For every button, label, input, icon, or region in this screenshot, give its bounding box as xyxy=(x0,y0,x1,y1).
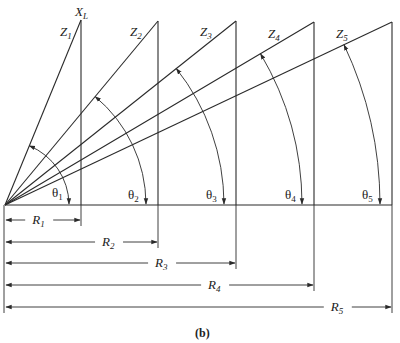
theta-label-3: θ3 xyxy=(206,187,217,204)
theta-arc-1 xyxy=(29,146,69,204)
r-label-1: R1 xyxy=(31,212,44,229)
r-label-4: R4 xyxy=(207,277,221,294)
triangle-4: Z4θ4R4 xyxy=(5,22,314,294)
z-label-4: Z4 xyxy=(268,26,280,43)
r-label-2: R2 xyxy=(101,234,115,251)
triangle-5: Z5θ5R5 xyxy=(5,22,392,316)
z-label-3: Z3 xyxy=(200,24,212,41)
theta-label-4: θ4 xyxy=(285,187,296,204)
triangle-3: Z3θ3R3 xyxy=(5,21,236,272)
theta-label-2: θ2 xyxy=(128,187,139,204)
z-label-1: Z1 xyxy=(60,24,72,41)
z-label-2: Z2 xyxy=(130,24,142,41)
r-label-3: R3 xyxy=(154,255,168,272)
theta-label-5: θ5 xyxy=(362,187,373,204)
z-label-5: Z5 xyxy=(336,26,348,43)
figure-caption: (b) xyxy=(195,326,210,340)
r-label-5: R5 xyxy=(330,299,344,316)
hypotenuse-z3 xyxy=(5,21,236,205)
xl-label: XL xyxy=(74,4,88,21)
theta-arc-4 xyxy=(261,54,303,204)
hypotenuse-z1 xyxy=(5,20,81,205)
theta-label-1: θ1 xyxy=(52,185,63,202)
hypotenuse-z5 xyxy=(5,22,392,205)
hypotenuse-z4 xyxy=(5,22,314,205)
theta-arc-5 xyxy=(344,45,380,204)
triangles: Z1θ1R1Z2θ2R2Z3θ3R3Z4θ4R4Z5θ5R5 xyxy=(5,20,392,316)
impedance-triangle-diagram: Z1θ1R1Z2θ2R2Z3θ3R3Z4θ4R4Z5θ5R5 XL (b) xyxy=(0,0,400,343)
